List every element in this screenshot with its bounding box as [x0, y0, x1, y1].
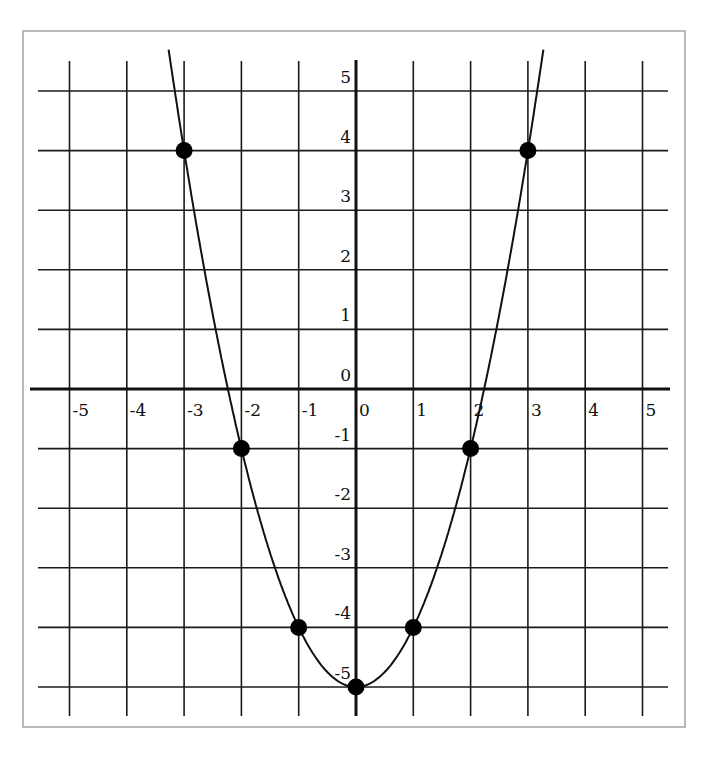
data-point: [290, 619, 307, 636]
y-tick-label: 2: [340, 246, 351, 266]
y-tick-label: -2: [334, 484, 351, 504]
y-tick-label: 3: [340, 186, 351, 206]
y-tick-label: -3: [334, 544, 351, 564]
x-tick-label: -4: [130, 400, 147, 420]
x-tick-label: -3: [187, 400, 204, 420]
x-tick-label: 4: [588, 400, 599, 420]
data-point: [348, 679, 365, 696]
data-point: [519, 142, 536, 159]
x-tick-label: 0: [359, 400, 370, 420]
parabola-chart: -5-4-3-2-1012345 543210-1-2-3-4-5: [0, 0, 712, 758]
y-tick-label: 5: [340, 67, 351, 87]
data-point: [176, 142, 193, 159]
x-tick-label: 3: [531, 400, 542, 420]
y-tick-label: -4: [334, 603, 351, 623]
y-tick-label: 1: [340, 305, 351, 325]
x-tick-label: 5: [646, 400, 657, 420]
data-point: [462, 440, 479, 457]
x-tick-label: -2: [244, 400, 261, 420]
x-tick-label: -1: [302, 400, 319, 420]
y-axis-tick-labels: 543210-1-2-3-4-5: [334, 67, 351, 683]
x-tick-label: -5: [73, 400, 90, 420]
y-tick-label: 4: [340, 127, 351, 147]
y-tick-label: 0: [340, 365, 351, 385]
x-axis-tick-labels: -5-4-3-2-1012345: [73, 400, 657, 420]
data-point: [405, 619, 422, 636]
x-tick-label: 1: [416, 400, 427, 420]
data-point: [233, 440, 250, 457]
y-tick-label: -1: [334, 425, 351, 445]
